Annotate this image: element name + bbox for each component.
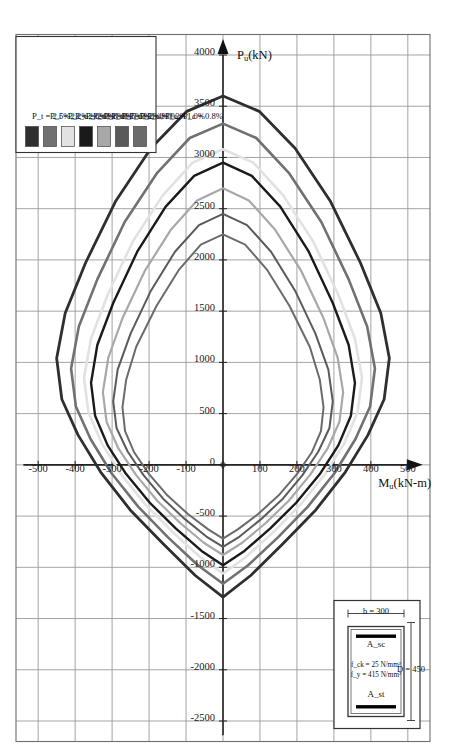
cross-section-inset: D = 450b = 300A_scA_stf_ck = 25 N/mm²f_y…	[334, 600, 425, 728]
tick-label-pu: 0	[210, 455, 215, 466]
tick-label-pu: 2000	[194, 250, 215, 261]
tick-label-mu: -400	[66, 462, 85, 473]
figure-rotation-wrapper: -2500-2000-1500-1000-5000500100015002000…	[0, 0, 456, 753]
inset-ast-label: A_st	[367, 688, 385, 698]
rebar-layer-asc	[356, 634, 396, 637]
axis-title-pu: Pu(kN)	[237, 47, 272, 63]
axis-title-mu: Mu(kN-m)	[378, 475, 431, 491]
legend-label: P_t = 2.5%; P_c = 2.0%	[32, 110, 115, 120]
tick-label-mu: -300	[102, 462, 121, 473]
tick-label-mu: 400	[363, 462, 379, 473]
inset-asc-label: A_sc	[367, 638, 386, 648]
tick-label-pu: -1500	[191, 609, 216, 620]
axis-title-mu-unit: (kN-m)	[394, 475, 432, 489]
tick-label-mu: 300	[326, 462, 342, 473]
tick-label-pu: 1000	[194, 353, 215, 364]
tick-label-pu: -2500	[191, 712, 216, 723]
tick-label-pu: 2500	[194, 199, 215, 210]
inset-depth-label: D = 450	[397, 663, 425, 673]
tick-label-mu: 200	[289, 462, 305, 473]
tick-label-pu: -2000	[191, 660, 216, 671]
inset-width-label: b = 300	[363, 605, 389, 615]
tick-label-mu: -100	[176, 462, 195, 473]
legend-swatch	[134, 126, 147, 146]
figure-root: -2500-2000-1500-1000-5000500100015002000…	[0, 0, 456, 753]
tick-label-mu: -500	[29, 462, 48, 473]
tick-label-pu: 500	[199, 404, 215, 415]
legend-swatch	[116, 126, 129, 146]
legend-swatch	[98, 126, 111, 146]
legend-swatch	[80, 126, 93, 146]
tick-label-mu: -200	[139, 462, 158, 473]
inset-fck-label: f_ck = 25 N/mm²	[351, 660, 401, 668]
interaction-diagram-figure: -2500-2000-1500-1000-5000500100015002000…	[0, 0, 456, 753]
tick-label-pu: 1500	[194, 302, 215, 313]
tick-label-mu: 500	[400, 462, 416, 473]
axis-title-pu-unit: (kN)	[248, 47, 272, 61]
axis-title-pu-text: Pu(kN)	[237, 47, 272, 63]
tick-label-pu: -1000	[191, 558, 216, 569]
inset-fy-label: f_y = 415 N/mm²	[351, 670, 401, 678]
rebar-layer-ast	[356, 705, 396, 708]
tick-label-mu: 100	[252, 462, 268, 473]
legend-swatch	[26, 126, 39, 146]
tick-label-pu: 3000	[194, 148, 215, 159]
tick-label-pu: 4000	[194, 45, 215, 56]
interaction-diagram-svg: -2500-2000-1500-1000-5000500100015002000…	[0, 0, 456, 753]
tick-label-pu: -500	[196, 507, 215, 518]
legend-swatch	[62, 126, 75, 146]
legend-swatch	[44, 126, 57, 146]
axis-title-mu-text: Mu(kN-m)	[378, 475, 431, 491]
tick-label-pu: 3500	[194, 97, 215, 108]
